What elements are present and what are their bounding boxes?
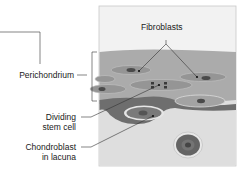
label-chondroblast-in-lacuna: Chondroblast in lacuna [25,142,76,162]
pointer-dot [158,84,160,86]
fibroblast-cell [111,66,151,75]
dividing-stem-cell [130,80,192,91]
label-dividing-stem-cell: Dividing stem cell [42,112,76,132]
fibroblast-cell [90,85,126,94]
fibroblast-cell [175,95,225,107]
pointer-dot [138,70,140,72]
label-line: in lacuna [25,152,76,162]
label-line: Chondroblast [25,142,76,152]
label-line: stem cell [42,122,76,132]
chondroblast-in-lacuna [124,106,164,121]
fibroblast-cell [95,76,115,83]
fibroblast-cell [180,73,226,82]
label-fibroblasts: Fibroblasts [141,22,183,32]
pointer-dot [152,115,154,117]
label-line: Dividing [42,112,76,122]
chondrocyte-cell [174,132,203,158]
pointer-dot [196,76,198,78]
label-perichondrium: Perichondrium [19,70,74,80]
